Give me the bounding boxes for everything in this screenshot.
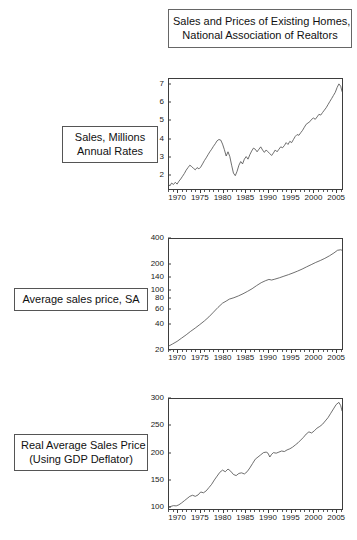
y-axis-tick-label-avg-price: 100 [151, 286, 164, 294]
x-axis-tick-mark-sales [245, 190, 246, 193]
x-axis-minor-tick-real-price [304, 510, 305, 512]
x-axis-tick-label-sales: 2005 [327, 194, 345, 202]
caption-sales-line-2: Annual Rates [69, 144, 151, 158]
x-axis-minor-tick-sales [186, 190, 187, 192]
x-axis-minor-tick-avg-price [232, 350, 233, 352]
x-axis-minor-tick-avg-price [309, 350, 310, 352]
x-axis-minor-tick-real-price [309, 510, 310, 512]
x-axis-tick-label-sales: 1975 [191, 194, 209, 202]
y-axis-tick-label-avg-price: 200 [151, 260, 164, 268]
x-axis-minor-tick-sales [341, 190, 342, 192]
x-axis-tick-label-sales: 2000 [305, 194, 323, 202]
x-axis-tick-mark-sales [291, 190, 292, 193]
x-axis-minor-tick-sales [191, 190, 192, 192]
x-axis-minor-tick-avg-price [263, 350, 264, 352]
x-axis-minor-tick-avg-price [277, 350, 278, 352]
x-axis-minor-tick-avg-price [318, 350, 319, 352]
x-axis-minor-tick-avg-price [273, 350, 274, 352]
x-axis-minor-tick-avg-price [173, 350, 174, 352]
x-axis-minor-tick-avg-price [186, 350, 187, 352]
x-axis-tick-mark-real-price [223, 510, 224, 513]
y-axis-tick-label-sales: 4 [160, 135, 164, 143]
x-axis-minor-tick-real-price [236, 510, 237, 512]
y-axis-tick-mark-sales [168, 101, 171, 102]
x-axis-minor-tick-real-price [218, 510, 219, 512]
x-axis-tick-label-avg-price: 1995 [282, 354, 300, 362]
y-axis-tick-mark-avg-price [168, 277, 171, 278]
x-axis-tick-label-real-price: 1985 [236, 514, 254, 522]
x-axis-minor-tick-real-price [191, 510, 192, 512]
x-axis-minor-tick-avg-price [286, 350, 287, 352]
x-axis-minor-tick-avg-price [241, 350, 242, 352]
x-axis-minor-tick-sales [332, 190, 333, 192]
x-axis-tick-label-avg-price: 1990 [259, 354, 277, 362]
page-title: Sales and Prices of Existing Homes, Nati… [168, 9, 352, 48]
x-axis-tick-mark-avg-price [336, 350, 337, 353]
x-axis-minor-tick-real-price [209, 510, 210, 512]
x-axis-tick-label-real-price: 2005 [327, 514, 345, 522]
x-axis-tick-label-real-price: 1980 [214, 514, 232, 522]
x-axis-minor-tick-real-price [168, 510, 169, 512]
x-axis-tick-label-real-price: 1975 [191, 514, 209, 522]
y-axis-tick-mark-sales [168, 120, 171, 121]
x-axis-minor-tick-sales [232, 190, 233, 192]
plot-area-real-price: 1001502002503001970197519801985199019952… [168, 398, 343, 510]
x-axis-tick-label-avg-price: 1975 [191, 354, 209, 362]
x-axis-minor-tick-sales [259, 190, 260, 192]
x-axis-tick-label-avg-price: 1970 [168, 354, 186, 362]
x-axis-minor-tick-real-price [232, 510, 233, 512]
x-axis-minor-tick-avg-price [227, 350, 228, 352]
plot-line-avg-price [168, 238, 343, 350]
y-axis-tick-mark-avg-price [168, 308, 171, 309]
x-axis-minor-tick-real-price [277, 510, 278, 512]
x-axis-minor-tick-sales [241, 190, 242, 192]
x-axis-minor-tick-avg-price [282, 350, 283, 352]
x-axis-minor-tick-avg-price [295, 350, 296, 352]
x-axis-minor-tick-real-price [182, 510, 183, 512]
caption-real-price-line-2: (Using GDP Deflator) [21, 452, 141, 466]
x-axis-minor-tick-avg-price [259, 350, 260, 352]
y-axis-tick-mark-real-price [168, 479, 171, 480]
x-axis-minor-tick-sales [213, 190, 214, 192]
x-axis-minor-tick-sales [236, 190, 237, 192]
y-axis-tick-mark-sales [168, 156, 171, 157]
x-axis-minor-tick-real-price [300, 510, 301, 512]
x-axis-tick-mark-sales [177, 190, 178, 193]
x-axis-tick-mark-sales [223, 190, 224, 193]
x-axis-minor-tick-real-price [327, 510, 328, 512]
x-axis-tick-label-sales: 1980 [214, 194, 232, 202]
x-axis-minor-tick-sales [282, 190, 283, 192]
x-axis-minor-tick-sales [323, 190, 324, 192]
x-axis-minor-tick-sales [254, 190, 255, 192]
x-axis-minor-tick-sales [209, 190, 210, 192]
x-axis-tick-label-real-price: 1990 [259, 514, 277, 522]
x-axis-minor-tick-avg-price [218, 350, 219, 352]
x-axis-tick-mark-avg-price [177, 350, 178, 353]
x-axis-tick-label-real-price: 1970 [168, 514, 186, 522]
y-axis-tick-label-real-price: 250 [151, 421, 164, 429]
x-axis-minor-tick-real-price [241, 510, 242, 512]
x-axis-minor-tick-real-price [227, 510, 228, 512]
x-axis-minor-tick-sales [304, 190, 305, 192]
y-axis-tick-label-real-price: 300 [151, 394, 164, 402]
x-axis-minor-tick-real-price [259, 510, 260, 512]
x-axis-tick-mark-avg-price [313, 350, 314, 353]
x-axis-tick-mark-real-price [336, 510, 337, 513]
x-axis-minor-tick-avg-price [300, 350, 301, 352]
y-axis-tick-label-sales: 2 [160, 171, 164, 179]
y-axis-tick-mark-real-price [168, 425, 171, 426]
x-axis-minor-tick-real-price [286, 510, 287, 512]
x-axis-minor-tick-real-price [282, 510, 283, 512]
y-axis-tick-mark-avg-price [168, 289, 171, 290]
y-axis-tick-mark-sales [168, 138, 171, 139]
x-axis-tick-label-avg-price: 2000 [305, 354, 323, 362]
y-axis-tick-label-real-price: 150 [151, 476, 164, 484]
y-axis-tick-label-avg-price: 140 [151, 273, 164, 281]
x-axis-tick-mark-sales [268, 190, 269, 193]
y-axis-tick-mark-avg-price [168, 238, 171, 239]
x-axis-minor-tick-real-price [250, 510, 251, 512]
x-axis-tick-mark-real-price [291, 510, 292, 513]
x-axis-minor-tick-sales [318, 190, 319, 192]
y-axis-tick-label-sales: 7 [160, 80, 164, 88]
x-axis-minor-tick-real-price [295, 510, 296, 512]
